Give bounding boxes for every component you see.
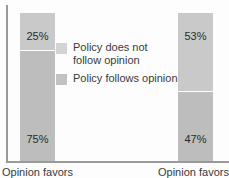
y-axis-line [6, 5, 8, 163]
chart-legend: Policy does not follow opinion Policy fo… [56, 41, 178, 91]
bar-segment-policy-follows-left: 75% [20, 51, 55, 161]
bar-segment-policy-follows-right: 47% [178, 92, 213, 161]
legend-item-policy-follows: Policy follows opinion [56, 72, 178, 85]
bar-group-left: 25% 75% [20, 13, 55, 161]
category-label-right: Opinion favors [158, 166, 229, 178]
bar-segment-label: 25% [20, 30, 55, 42]
bar-segment-policy-does-not-follow-right: 53% [178, 13, 213, 92]
bar-segment-label: 53% [178, 30, 213, 42]
bar-segment-label: 47% [178, 133, 213, 145]
legend-item-label: Policy follows opinion [73, 72, 178, 85]
legend-swatch-icon [56, 74, 67, 85]
legend-item-policy-does-not-follow: Policy does not follow opinion [56, 41, 178, 66]
category-label-left: Opinion favors [2, 166, 73, 178]
bar-segment-label: 75% [20, 133, 55, 145]
legend-swatch-icon [56, 43, 67, 54]
bar-group-right: 53% 47% [178, 13, 213, 161]
stacked-bar-chart: 25% 75% 53% 47% Policy does not follow o… [0, 0, 229, 178]
legend-item-label: Policy does not follow opinion [73, 41, 148, 66]
bar-segment-policy-does-not-follow-left: 25% [20, 13, 55, 51]
x-axis-line [6, 161, 229, 163]
